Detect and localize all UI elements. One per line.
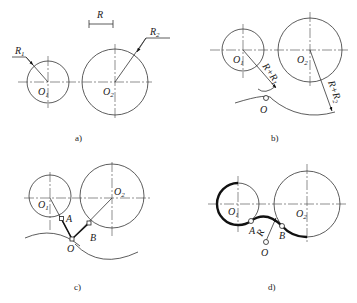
r2-leader-line bbox=[115, 38, 170, 82]
caption-a: a) bbox=[75, 133, 82, 143]
o2-label: O2 bbox=[103, 86, 114, 99]
segment-b-o bbox=[72, 223, 89, 239]
r1-leader-line bbox=[12, 57, 48, 82]
panel-c: O1 O2 A B O c) bbox=[24, 162, 150, 292]
r-plus-r2-arrow-icon bbox=[310, 50, 332, 111]
point-o bbox=[70, 237, 74, 241]
r1-label: R1 bbox=[14, 45, 25, 58]
b-label: B bbox=[279, 230, 285, 241]
arc-tangency-construction-diagram: R R1 R2 O1 O2 a) O1 O2 O R+R1 R+R2 b) bbox=[0, 0, 357, 303]
caption-b: b) bbox=[271, 133, 279, 143]
panel-b: O1 O2 O R+R1 R+R2 b) bbox=[210, 12, 350, 143]
arc-r-plus-r1 bbox=[258, 86, 276, 91]
a-label: A bbox=[65, 213, 73, 224]
caption-d: d) bbox=[268, 282, 276, 292]
o1-label: O1 bbox=[38, 86, 49, 99]
r1-arrow-icon bbox=[26, 57, 33, 65]
point-b bbox=[280, 224, 285, 229]
radius-r-label: R bbox=[253, 228, 266, 239]
r2-arrow-icon bbox=[137, 38, 146, 52]
o-label: O bbox=[261, 247, 268, 258]
r-dimension-label: R bbox=[96, 9, 103, 20]
r-dimension-bar bbox=[89, 20, 113, 28]
thick-arc-o2 bbox=[282, 226, 307, 237]
point-o bbox=[264, 96, 269, 101]
r-plus-r2-label: R+R2 bbox=[324, 78, 344, 105]
o1-label: O1 bbox=[38, 199, 49, 212]
o-label: O bbox=[260, 104, 267, 115]
o2-label: O2 bbox=[297, 54, 308, 67]
point-o bbox=[264, 240, 269, 245]
arc-r-plus-r2 bbox=[75, 244, 138, 259]
o2-label: O2 bbox=[114, 186, 125, 199]
panel-a: R R1 R2 O1 O2 a) bbox=[12, 9, 170, 143]
r-plus-r1-label: R+R1 bbox=[258, 60, 282, 87]
arc-r-plus-r2 bbox=[235, 96, 335, 115]
radius-r-arrow-icon bbox=[266, 218, 276, 241]
point-b bbox=[87, 221, 91, 225]
o-label: O bbox=[67, 243, 74, 254]
point-a bbox=[60, 217, 64, 221]
o1-label: O1 bbox=[228, 206, 239, 219]
thick-tangent-arc bbox=[238, 217, 282, 226]
point-a bbox=[249, 219, 254, 224]
b-label: B bbox=[90, 232, 96, 243]
caption-c: c) bbox=[74, 282, 81, 292]
r2-label: R2 bbox=[149, 26, 160, 39]
panel-d: O1 O2 A B R O d) bbox=[208, 164, 346, 292]
o1-label: O1 bbox=[233, 54, 244, 67]
o2-label: O2 bbox=[296, 208, 307, 221]
